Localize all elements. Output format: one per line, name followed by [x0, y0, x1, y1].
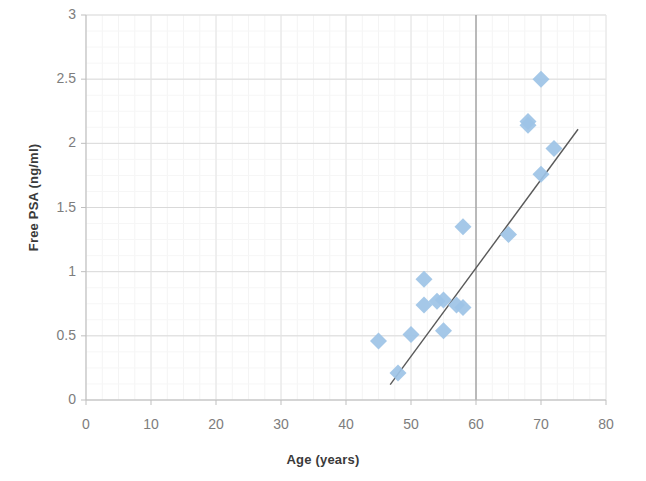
- x-axis-tick-label: 50: [391, 416, 431, 432]
- y-axis-tick-label: 1: [36, 263, 76, 279]
- x-axis-tick-label: 10: [131, 416, 171, 432]
- data-point-marker: [416, 271, 433, 288]
- x-axis-tick-label: 20: [196, 416, 236, 432]
- y-axis-tick-label: 2: [36, 134, 76, 150]
- data-point-marker: [533, 166, 550, 183]
- x-axis-tick-label: 0: [66, 416, 106, 432]
- x-axis-tick-label: 80: [586, 416, 626, 432]
- y-axis-tick-label: 1.5: [36, 199, 76, 215]
- data-point-marker: [390, 365, 407, 382]
- y-axis-tick-label: 0: [36, 391, 76, 407]
- data-point-marker: [370, 332, 387, 349]
- x-axis-tick-label: 60: [456, 416, 496, 432]
- data-point-marker: [403, 326, 420, 343]
- data-point-marker: [500, 226, 517, 243]
- y-axis-tick-label: 3: [36, 6, 76, 22]
- x-axis-tick-label: 30: [261, 416, 301, 432]
- data-point-group: [370, 71, 563, 382]
- x-axis-tick-label: 70: [521, 416, 561, 432]
- y-axis-tick-label: 0.5: [36, 327, 76, 343]
- data-point-marker: [416, 297, 433, 314]
- y-axis-tick-label: 2.5: [36, 70, 76, 86]
- plot-area: [0, 0, 646, 481]
- data-point-marker: [533, 71, 550, 88]
- data-point-marker: [455, 218, 472, 235]
- data-point-marker: [435, 322, 452, 339]
- scatter-chart: Free PSA (ng/ml) Age (years) 01020304050…: [0, 0, 646, 481]
- x-axis-title: Age (years): [0, 452, 646, 467]
- trendline: [390, 129, 578, 384]
- x-axis-tick-label: 40: [326, 416, 366, 432]
